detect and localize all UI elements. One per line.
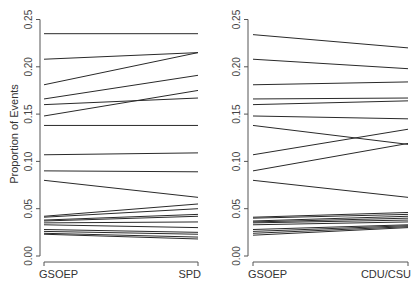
y-tick-label: 0.25 bbox=[231, 9, 242, 29]
series-line bbox=[253, 143, 408, 170]
x-category-label: GSOEP bbox=[248, 268, 287, 280]
series-line bbox=[253, 82, 408, 85]
y-tick-label: 0.00 bbox=[23, 246, 34, 266]
y-tick-label: 0.00 bbox=[231, 246, 242, 266]
x-category-label: CDU/CSU bbox=[361, 268, 411, 280]
series-line bbox=[253, 101, 408, 105]
y-tick-label: 0.20 bbox=[231, 57, 242, 77]
series-line bbox=[44, 53, 198, 60]
x-category-label: GSOEP bbox=[39, 268, 78, 280]
y-tick-label: 0.05 bbox=[231, 199, 242, 219]
series-line bbox=[44, 171, 198, 172]
y-tick-label: 0.25 bbox=[23, 9, 34, 29]
series-line bbox=[44, 180, 198, 197]
series-line bbox=[44, 222, 198, 223]
series-line bbox=[44, 53, 198, 85]
y-tick-label: 0.15 bbox=[231, 104, 242, 124]
y-tick-label: 0.20 bbox=[23, 57, 34, 77]
slope-chart-canvas: 0.000.050.100.150.200.25GSOEPSPD0.000.05… bbox=[0, 0, 418, 285]
slope-chart-figure: 0.000.050.100.150.200.25GSOEPSPD0.000.05… bbox=[0, 0, 418, 285]
x-category-label: SPD bbox=[178, 268, 201, 280]
series-line bbox=[253, 98, 408, 99]
y-tick-label: 0.15 bbox=[23, 104, 34, 124]
y-tick-label: 0.05 bbox=[23, 199, 34, 219]
series-line bbox=[253, 35, 408, 48]
series-line bbox=[44, 153, 198, 155]
y-axis-title: Proportion of Events bbox=[8, 74, 20, 194]
series-line bbox=[253, 227, 408, 234]
series-line bbox=[44, 225, 198, 228]
series-line bbox=[253, 116, 408, 119]
series-line bbox=[253, 180, 408, 197]
series-line bbox=[44, 75, 198, 99]
series-line bbox=[253, 59, 408, 68]
y-tick-label: 0.10 bbox=[23, 151, 34, 171]
y-tick-label: 0.10 bbox=[231, 151, 242, 171]
